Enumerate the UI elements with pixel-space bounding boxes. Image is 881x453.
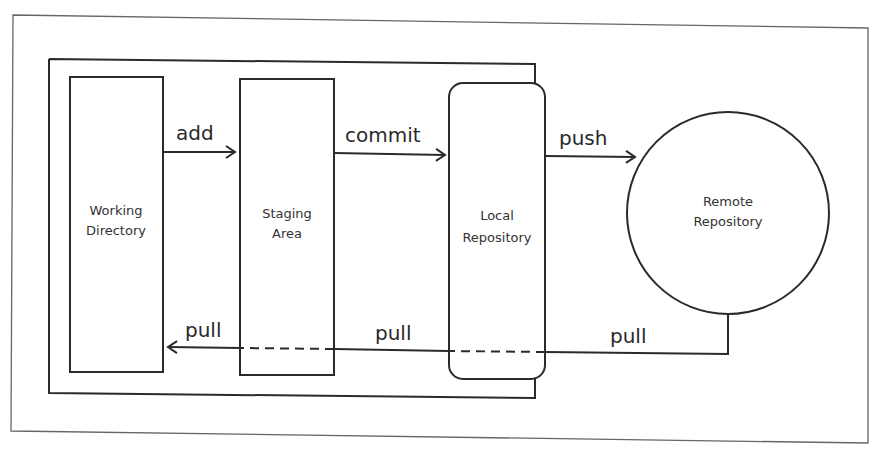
working-directory-label-2: Directory [86,223,146,238]
remote-repository-circle [627,112,829,314]
add-label: add [176,121,214,145]
pull-label-left: pull [185,318,221,342]
staging-area-label-2: Area [272,226,302,241]
pull-label-middle: pull [375,321,411,345]
working-directory-label-1: Working [89,203,142,218]
pull-arrow [168,347,240,348]
push-label: push [559,126,607,150]
pull-label-right: pull [610,324,646,348]
commit-arrow [334,153,445,155]
remote-repository-label-2: Repository [693,214,762,229]
git-workflow-diagram: Working Directory Staging Area Local Rep… [0,0,881,453]
staging-area-label-1: Staging [262,206,312,221]
pull-line-middle [334,349,449,351]
commit-label: commit [345,123,421,147]
remote-repository-label-1: Remote [703,194,753,209]
push-arrow [545,156,635,157]
local-repository-label-1: Local [480,208,514,223]
local-repository-label-2: Repository [462,230,531,245]
